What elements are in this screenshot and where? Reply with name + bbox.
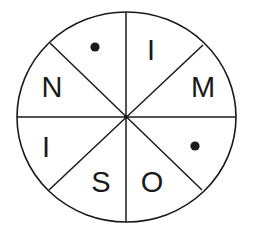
- circle-puzzle-svg: I M O S I N: [0, 0, 253, 233]
- sector-dot-right-lower: [190, 141, 199, 150]
- circle-puzzle-diagram: I M O S I N: [0, 0, 253, 233]
- sector-letter-top-right-upper: I: [147, 34, 155, 66]
- sector-letter-left-lower: I: [42, 131, 50, 163]
- sector-letter-bottom-right: O: [141, 166, 164, 198]
- sector-letter-bottom-left: S: [91, 166, 110, 198]
- sector-dot-top-left-upper: [90, 42, 99, 51]
- sector-letter-right-upper: M: [191, 71, 215, 103]
- sector-letter-left-upper: N: [42, 71, 63, 103]
- center-point: [124, 115, 128, 119]
